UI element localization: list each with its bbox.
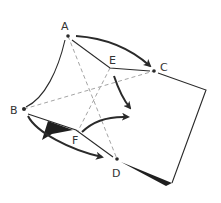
- dashed-B-C: [24, 71, 154, 109]
- edge-C-right: [158, 73, 206, 183]
- sheet-outline: [26, 40, 206, 183]
- curve-A-B: [26, 40, 65, 107]
- point-B: [22, 107, 26, 111]
- point-C: [152, 69, 156, 73]
- label-E: E: [109, 54, 116, 67]
- flap-D-bottom: [121, 162, 172, 186]
- points: [22, 34, 156, 161]
- arrow-B-to-D: [28, 116, 102, 157]
- point-D: [115, 157, 119, 161]
- label-D: D: [112, 167, 120, 180]
- diagram-canvas: A B C D E F: [0, 0, 221, 203]
- label-A: A: [61, 20, 69, 33]
- point-A: [66, 34, 70, 38]
- label-C: C: [160, 61, 168, 74]
- label-F: F: [72, 134, 78, 147]
- dashed-E-F: [78, 68, 110, 131]
- label-B: B: [10, 104, 18, 117]
